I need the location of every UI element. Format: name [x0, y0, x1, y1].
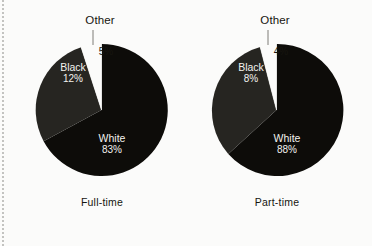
pie-chart-figure: Other 5% Black 12% White 83% Full-time O… [0, 0, 372, 246]
chart-full-time: Other 5% Black 12% White 83% Full-time [8, 0, 194, 246]
label-other: Other [245, 14, 305, 26]
pie-part-time: Other 4% Black 8% White 88% Part-time [183, 0, 369, 246]
label-black: Black [49, 62, 97, 73]
label-black: Black [227, 62, 275, 73]
pie-part-time-svg [183, 0, 369, 246]
label-white-percent: 83% [86, 145, 138, 156]
pie-full-time: Other 5% Black 12% White 83% Full-time [8, 0, 194, 246]
chart-part-time: Other 4% Black 8% White 88% Part-time [183, 0, 369, 246]
label-other: Other [70, 14, 130, 26]
label-black-percent: 12% [49, 74, 97, 85]
label-other-percent: 5% [91, 47, 121, 58]
chart-caption-part-time: Part-time [236, 197, 318, 208]
chart-caption-full-time: Full-time [61, 197, 143, 208]
label-white: White [86, 133, 138, 144]
pie-full-time-svg [8, 0, 194, 246]
label-other-percent: 4% [266, 47, 296, 58]
label-black-percent: 8% [227, 74, 275, 85]
label-white: White [261, 133, 313, 144]
label-white-percent: 88% [261, 145, 313, 156]
